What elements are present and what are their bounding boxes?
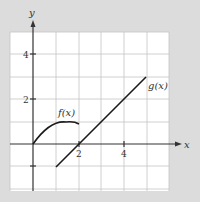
g-label: g(x)	[148, 80, 168, 91]
y-axis-label: y	[28, 7, 35, 18]
x-axis-label: x	[184, 139, 190, 150]
graph-figure: y x 4 2 2 4 f(x) g(x)	[0, 0, 200, 202]
plot-area	[10, 32, 169, 191]
f-label: f(x)	[57, 107, 75, 118]
y-tick-2: 2	[23, 95, 29, 105]
x-tick-2: 2	[76, 149, 82, 159]
x-axis-arrow-icon	[175, 142, 182, 147]
y-axis-arrow-icon	[31, 20, 36, 27]
y-tick-4: 4	[23, 50, 29, 60]
x-tick-4: 4	[121, 149, 127, 159]
